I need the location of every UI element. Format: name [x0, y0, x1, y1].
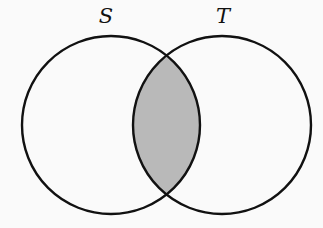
set-t-label: T [216, 6, 230, 27]
set-s-label: S [99, 6, 113, 27]
venn-diagram: S T [0, 0, 323, 228]
venn-diagram-graphic [0, 0, 323, 228]
